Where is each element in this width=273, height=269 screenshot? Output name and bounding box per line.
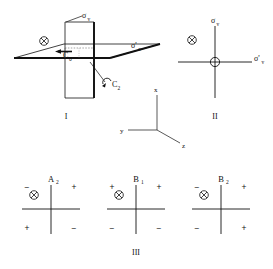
sigma-v-leader-line [66, 16, 82, 22]
sign-diagram-b1: B 1 + + − − [107, 174, 165, 234]
b1-term-subscript: 1 [141, 179, 144, 185]
axis-x-label: x [154, 86, 158, 94]
panel-one-sigma-v-subscript: v [88, 16, 91, 22]
b1-sign-bottom-right: − [157, 223, 162, 233]
a2-term-subscript: 2 [56, 179, 59, 185]
circled-x-icon [30, 191, 39, 200]
panel-one-center-label-subscript: 0 [69, 56, 72, 62]
circled-x-icon [188, 36, 197, 45]
panel-one-group: σ v σ' v C 0 C 2 I [14, 11, 160, 121]
panel-two-sigma-v-label: σ [211, 16, 216, 25]
a2-sign-bottom-left: + [25, 223, 30, 233]
vertical-plane-lower-outline [65, 58, 94, 98]
c2-axis-leader-line [90, 62, 105, 82]
a2-term-label: A [48, 174, 55, 184]
panel-one-sigma-v-label: σ [82, 11, 87, 20]
circled-x-icon [40, 37, 49, 46]
b2-term-label: B [218, 174, 224, 184]
panel-one-center-label: C [63, 51, 68, 60]
panel-one-c2-subscript: 2 [118, 85, 121, 91]
a2-sign-top-right: + [72, 182, 77, 192]
a2-sign-top-left: − [25, 182, 30, 192]
panel-three-roman-label: III [132, 248, 140, 257]
axis-z-label: z [182, 142, 185, 150]
center-arrow-head [55, 49, 61, 54]
panel-one-sigma-v-prime-label: σ' [131, 41, 137, 50]
circled-x-icon [200, 191, 209, 200]
b1-sign-top-left: + [110, 182, 115, 192]
a2-sign-bottom-right: − [72, 223, 77, 233]
b1-term-label: B [133, 174, 139, 184]
circled-x-icon [115, 191, 124, 200]
panel-one-roman-label: I [65, 112, 68, 121]
panel-two-sigma-v-prime-label: σ' [254, 54, 260, 63]
sign-diagram-b2: B 2 − + − + [192, 174, 250, 234]
panel-two-roman-label: II [212, 112, 218, 121]
panel-one-sigma-v-prime-subscript: v [139, 46, 142, 52]
panel-three-group: A 2 − + + − B 1 + + − [22, 174, 250, 257]
panel-two-group: σ v σ' v II [178, 16, 265, 121]
b1-sign-bottom-left: − [110, 223, 115, 233]
axis-z-line [157, 130, 180, 143]
b1-sign-top-right: + [157, 182, 162, 192]
symmetry-figure: σ v σ' v C 0 C 2 I x y z [0, 0, 273, 269]
b2-sign-bottom-left: − [195, 223, 200, 233]
axis-triad-group: x y z [120, 86, 185, 150]
circled-plus-icon [210, 57, 219, 66]
axis-y-label: y [120, 127, 124, 135]
figure-canvas: σ v σ' v C 0 C 2 I x y z [0, 0, 273, 269]
b2-sign-top-left: − [195, 182, 200, 192]
panel-two-sigma-v-prime-subscript: v [262, 59, 265, 65]
b2-sign-bottom-right: + [242, 223, 247, 233]
sign-diagram-a2: A 2 − + + − [22, 174, 80, 234]
b2-term-subscript: 2 [226, 179, 229, 185]
panel-two-sigma-v-subscript: v [217, 21, 220, 27]
vertical-plane-upper-outline [65, 22, 94, 58]
b2-sign-top-right: + [242, 182, 247, 192]
